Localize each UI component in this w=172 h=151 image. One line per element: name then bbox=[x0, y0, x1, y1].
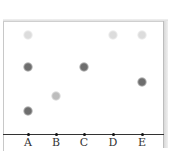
lane-label-e: E bbox=[135, 137, 149, 149]
plate-right-edge bbox=[163, 21, 168, 148]
spot-a-2 bbox=[23, 62, 33, 72]
spot-d-1 bbox=[108, 30, 118, 40]
spot-a-3 bbox=[23, 106, 33, 116]
lane-label-a: A bbox=[21, 137, 35, 149]
lane-label-d: D bbox=[106, 137, 120, 149]
spot-a-1 bbox=[23, 30, 33, 40]
spot-c-1 bbox=[79, 62, 89, 72]
lane-label-b: B bbox=[49, 137, 63, 149]
spot-e-1 bbox=[137, 30, 147, 40]
spot-e-2 bbox=[137, 77, 147, 87]
lane-label-c: C bbox=[77, 137, 91, 149]
spot-b-1 bbox=[51, 91, 61, 101]
